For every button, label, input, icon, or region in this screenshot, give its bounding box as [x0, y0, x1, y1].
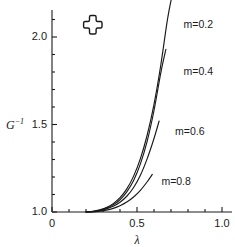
cross-outline-marker: [84, 16, 102, 34]
y-axis-title-base: G: [6, 118, 15, 132]
x-tick-label: 1.0: [202, 218, 235, 229]
cross-outline-icon: [84, 16, 102, 34]
curve-m08: [86, 174, 152, 212]
curve-m06: [86, 121, 159, 212]
y-tick-label: 1.0: [0, 206, 47, 217]
chart-figure: 1.0 1.5 2.0 0 0.5 1.0 G−1 λ m=0.2 m=0.4 …: [0, 0, 235, 247]
curves-group: [86, 0, 173, 212]
curve-label-m06: m=0.6: [175, 126, 204, 137]
curve-label-m04: m=0.4: [184, 66, 213, 77]
y-tick-label: 2.0: [0, 31, 47, 42]
y-axis-title-exponent: −1: [15, 117, 24, 126]
curve-m02: [86, 0, 173, 212]
x-tick-label: 0.5: [117, 218, 157, 229]
x-axis-title: λ: [117, 234, 157, 246]
x-tick-label: 0: [32, 218, 72, 229]
curve-label-m02: m=0.2: [184, 19, 213, 30]
axes-group: [52, 10, 232, 212]
y-axis-title: G−1: [6, 118, 24, 131]
curve-label-m08: m=0.8: [161, 176, 190, 187]
curve-m04: [86, 49, 166, 212]
